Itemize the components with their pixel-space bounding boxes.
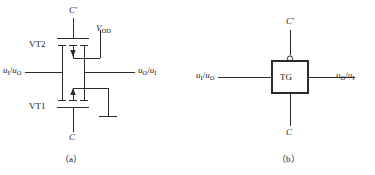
caption-panel-b: （b） bbox=[277, 152, 300, 165]
label-transistor-vt2: VT2 bbox=[29, 40, 46, 49]
label-right-port-b: uO/uI bbox=[336, 71, 354, 80]
label-control-bottom-b: C bbox=[286, 128, 292, 137]
vt1-body-arrow bbox=[70, 88, 75, 95]
transmission-gate-figure: C′ VDD VT2 VT1 C uI/uO uO/uI （a） C′ TG C… bbox=[0, 0, 375, 175]
label-tg-block: TG bbox=[280, 72, 292, 82]
label-left-port-b: uI/uO bbox=[196, 71, 214, 80]
inverting-bubble-icon bbox=[287, 56, 292, 61]
label-supply-vdd: VDD bbox=[96, 24, 111, 33]
label-left-port-a: uI/uO bbox=[3, 66, 21, 75]
circuit-wires bbox=[0, 0, 375, 175]
caption-panel-a: （a） bbox=[60, 152, 82, 165]
vt2-body-arrow bbox=[70, 50, 75, 57]
label-right-port-a: uO/uI bbox=[138, 66, 156, 75]
label-transistor-vt1: VT1 bbox=[29, 102, 46, 111]
label-control-top-b: C′ bbox=[286, 17, 294, 26]
label-control-top-a: C′ bbox=[69, 6, 77, 15]
label-control-bottom-a: C bbox=[69, 133, 75, 142]
